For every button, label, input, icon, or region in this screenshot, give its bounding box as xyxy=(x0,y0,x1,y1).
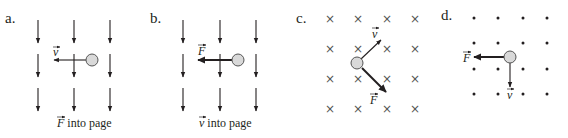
svg-text:×: × xyxy=(325,102,335,116)
svg-text:×: × xyxy=(353,42,363,56)
diagram-canvas: a. v F into page b. xyxy=(0,0,568,138)
caption-a: F into page xyxy=(56,116,112,130)
particle xyxy=(86,54,98,66)
velocity-label: v xyxy=(507,88,513,102)
svg-text:×: × xyxy=(353,102,363,116)
svg-text:×: × xyxy=(410,72,420,86)
particle xyxy=(351,57,363,69)
caption-b: v into page xyxy=(199,116,252,130)
panel-a-label: a. xyxy=(5,10,15,26)
force-label: F xyxy=(369,93,378,107)
svg-text:×: × xyxy=(382,42,392,56)
force-label: F xyxy=(462,51,471,65)
velocity-label: v xyxy=(372,27,378,41)
particle xyxy=(504,51,516,63)
svg-text:×: × xyxy=(325,72,335,86)
svg-text:×: × xyxy=(382,72,392,86)
panel-d-label: d. xyxy=(441,7,452,23)
panel-a: a. v F into page xyxy=(5,10,112,130)
svg-text:×: × xyxy=(353,12,363,26)
svg-text:×: × xyxy=(382,102,392,116)
panel-d: d. F v xyxy=(441,7,549,102)
field-arrows-a xyxy=(38,20,110,111)
panel-b: b. F v into page xyxy=(150,10,256,130)
velocity-arrow xyxy=(361,40,381,59)
svg-text:×: × xyxy=(382,12,392,26)
field-arrows-b xyxy=(183,20,256,111)
svg-text:×: × xyxy=(410,42,420,56)
panel-c-label: c. xyxy=(296,10,306,26)
svg-text:×: × xyxy=(325,42,335,56)
svg-text:×: × xyxy=(410,12,420,26)
panel-b-label: b. xyxy=(150,10,161,26)
panel-c: c. × × × × × × × × × × × × × × × × v F xyxy=(296,10,420,116)
svg-text:×: × xyxy=(325,12,335,26)
particle xyxy=(232,54,244,66)
force-label: F xyxy=(197,44,206,58)
svg-text:×: × xyxy=(353,72,363,86)
svg-text:×: × xyxy=(410,102,420,116)
